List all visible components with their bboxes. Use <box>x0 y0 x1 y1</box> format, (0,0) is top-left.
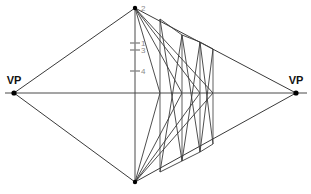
diagram-background <box>0 0 311 194</box>
vp-right-dot[interactable] <box>293 90 298 95</box>
measure-tick-label-2: 2 <box>141 4 146 13</box>
vertex-dot-apex-top <box>133 6 137 10</box>
measure-tick-label-3: 3 <box>141 46 146 55</box>
vp-left-label: VP <box>7 74 22 86</box>
perspective-diagram: 2134 VPVP <box>0 0 311 194</box>
measure-tick-label-4: 4 <box>141 67 146 76</box>
vp-right-label: VP <box>289 74 304 86</box>
vertex-dot-apex-bottom <box>133 180 137 184</box>
vp-left-dot[interactable] <box>11 90 16 95</box>
perspective-diagram-canvas: 2134 VPVP <box>0 0 311 194</box>
